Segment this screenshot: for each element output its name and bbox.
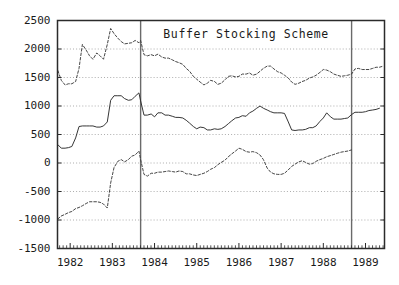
y-axis-tick-label: 2500: [24, 14, 51, 27]
plot-border: [58, 21, 385, 249]
chart-figure: 25002000150010005000-500-1000-1500 19821…: [0, 0, 399, 285]
axis-ticks-group: [58, 21, 385, 249]
y-axis-tick-label: 1000: [24, 99, 51, 112]
plot-frame: [58, 21, 385, 249]
x-axis-tick-label: 1982: [50, 256, 90, 269]
x-axis-tick-label: 1984: [135, 256, 175, 269]
y-axis-tick-label: -1500: [17, 242, 50, 255]
x-axis-tick-label: 1983: [92, 256, 132, 269]
chart-title: Buffer Stocking Scheme: [0, 27, 399, 41]
x-axis-tick-label: 1988: [303, 256, 343, 269]
y-axis-tick-label: 1500: [24, 71, 51, 84]
series-lower-band: [58, 148, 352, 219]
y-axis-tick-label: 0: [44, 156, 51, 169]
y-axis-tick-label: 2000: [24, 42, 51, 55]
data-series-group: [58, 28, 383, 218]
x-axis-tick-label: 1987: [261, 256, 301, 269]
x-axis-tick-label: 1986: [219, 256, 259, 269]
x-axis-tick-label: 1989: [346, 256, 386, 269]
chart-plot-area: [0, 0, 399, 285]
y-axis-tick-label: -500: [24, 185, 51, 198]
x-axis-tick-label: 1985: [177, 256, 217, 269]
y-axis-tick-label: 500: [31, 128, 51, 141]
series-central-line: [58, 93, 380, 148]
y-axis-tick-label: -1000: [17, 213, 50, 226]
